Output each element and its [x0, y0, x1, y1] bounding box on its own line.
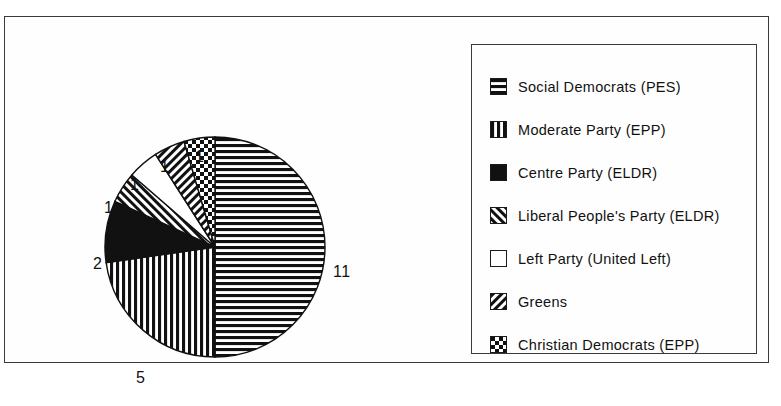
chart-figure-frame: 11521111 Social Democrats (PES)Moderate …	[4, 16, 769, 363]
legend-swatch-solid-black-icon	[490, 164, 507, 181]
pie-value-label: 1	[160, 158, 169, 176]
legend-swatch-forward-diagonal-icon	[490, 293, 507, 310]
legend-swatch-vertical-stripes-icon	[490, 121, 507, 138]
legend-swatch-checkerboard-icon	[490, 336, 507, 353]
legend-item-label: Liberal People's Party (ELDR)	[518, 208, 720, 224]
pie-value-label: 1	[130, 176, 139, 194]
pie-slice[interactable]	[215, 137, 325, 357]
legend-item[interactable]: Liberal People's Party (ELDR)	[490, 194, 750, 237]
legend-box: Social Democrats (PES)Moderate Party (EP…	[471, 44, 757, 354]
legend-item-label: Left Party (United Left)	[518, 251, 671, 267]
legend-item[interactable]: Centre Party (ELDR)	[490, 151, 750, 194]
legend-list: Social Democrats (PES)Moderate Party (EP…	[490, 65, 750, 366]
legend-item[interactable]: Greens	[490, 280, 750, 323]
pie-chart: 11521111	[80, 132, 410, 362]
legend-item[interactable]: Moderate Party (EPP)	[490, 108, 750, 151]
legend-item[interactable]: Social Democrats (PES)	[490, 65, 750, 108]
pie-slice[interactable]	[106, 247, 215, 357]
legend-item-label: Moderate Party (EPP)	[518, 122, 666, 138]
legend-item-label: Greens	[518, 294, 567, 310]
legend-item[interactable]: Christian Democrats (EPP)	[490, 323, 750, 366]
pie-value-label: 2	[93, 255, 102, 273]
pie-slice-group	[105, 137, 325, 357]
legend-item-label: Social Democrats (PES)	[518, 79, 681, 95]
pie-value-label: 1	[104, 199, 113, 217]
legend-swatch-horizontal-stripes-icon	[490, 78, 507, 95]
pie-chart-svg	[80, 132, 410, 362]
legend-swatch-white-empty-icon	[490, 250, 507, 267]
legend-item-label: Centre Party (ELDR)	[518, 165, 657, 181]
legend-swatch-backslash-diagonal-icon	[490, 207, 507, 224]
pie-value-label: 11	[333, 263, 351, 281]
legend-item-label: Christian Democrats (EPP)	[518, 337, 700, 353]
legend-item[interactable]: Left Party (United Left)	[490, 237, 750, 280]
pie-value-label: 5	[136, 369, 145, 387]
pie-value-label: 1	[195, 148, 204, 166]
